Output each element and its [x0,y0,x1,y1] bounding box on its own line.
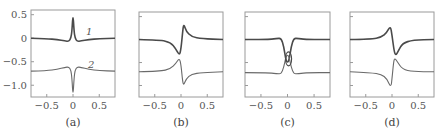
curve-label-1: 1 [86,26,92,37]
panel-caption: (d) [384,116,400,129]
x-tick-label: 0 [284,100,290,111]
x-tick-label: −0.5 [35,100,59,111]
curve-1 [245,38,330,62]
plot-frame [350,12,434,97]
panel-a: 0.50−0.5−1.0−0.500.512(a) [3,9,115,129]
panel-caption: (c) [280,116,295,129]
plot-frame [245,12,330,97]
curve-1 [350,28,434,55]
curve-2 [31,67,115,92]
x-tick-label: −0.5 [249,100,273,111]
curve-2 [350,59,434,86]
curve-1 [31,18,115,42]
y-tick-label: −1.0 [3,80,27,91]
y-tick-label: 0.5 [11,9,27,20]
panel-c: −0.500.5(c) [245,12,330,129]
x-tick-label: −0.5 [354,100,378,111]
x-tick-label: 0.5 [410,100,426,111]
plot-frame [139,12,223,97]
curve-1 [139,26,223,54]
curve-2 [139,59,223,84]
curve-label-2: 2 [87,59,94,70]
panel-caption: (a) [65,116,80,129]
x-tick-label: 0 [178,100,184,111]
x-tick-label: 0.5 [199,100,215,111]
panel-b: −0.500.5(b) [139,12,223,129]
x-tick-label: −0.5 [143,100,167,111]
y-tick-label: 0 [21,33,27,44]
figure: 0.50−0.5−1.0−0.500.512(a)−0.500.5(b)−0.5… [0,0,442,134]
curve-2 [245,55,330,74]
x-tick-label: 0.5 [91,100,107,111]
panel-caption: (b) [173,116,189,129]
y-tick-label: −0.5 [3,56,27,67]
x-tick-label: 0.5 [306,100,322,111]
panel-d: −0.500.5(d) [350,12,434,129]
x-tick-label: 0 [70,100,76,111]
x-tick-label: 0 [389,100,395,111]
